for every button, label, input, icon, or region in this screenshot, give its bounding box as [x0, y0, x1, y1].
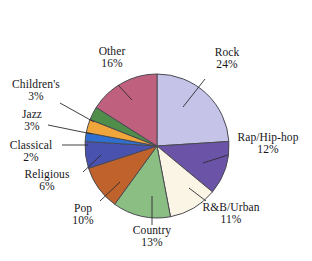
- pie-label-rock-name: Rock: [200, 46, 254, 58]
- pie-label-pop: Pop 10%: [63, 202, 103, 227]
- pie-label-rnb-urban: R&B/Urban 11%: [194, 201, 268, 226]
- pie-label-other-name: Other: [86, 45, 138, 57]
- pie-label-childrens-name: Children's: [8, 78, 64, 90]
- pie-label-childrens-value: 3%: [8, 90, 64, 102]
- pie-label-jazz: Jazz 3%: [14, 108, 50, 133]
- pie-label-childrens: Children's 3%: [8, 78, 64, 103]
- pie-chart-figure: Rock 24% Rap/Hip-hop 12% R&B/Urban 11% C…: [0, 0, 312, 261]
- pie-label-other-value: 16%: [86, 57, 138, 69]
- pie-label-rap-hip-hop: Rap/Hip-hop 12%: [228, 131, 308, 156]
- pie-label-country-value: 13%: [120, 236, 184, 248]
- pie-label-other: Other 16%: [86, 45, 138, 70]
- pie-label-rap-hip-hop-value: 12%: [228, 143, 308, 155]
- pie-label-classical-value: 2%: [0, 151, 62, 163]
- pie-label-rock: Rock 24%: [200, 46, 254, 71]
- pie-label-classical-name: Classical: [0, 139, 62, 151]
- leader-line-jazz: [48, 125, 92, 134]
- pie-label-rap-hip-hop-name: Rap/Hip-hop: [228, 131, 308, 143]
- pie-label-religious-name: Religious: [14, 168, 80, 180]
- pie-label-religious-value: 6%: [14, 180, 80, 192]
- pie-label-country-name: Country: [120, 224, 184, 236]
- pie-label-rock-value: 24%: [200, 58, 254, 70]
- pie-label-jazz-value: 3%: [14, 120, 50, 132]
- pie-slice-rock: [157, 74, 229, 146]
- leader-line-childrens: [60, 103, 94, 122]
- pie-label-pop-value: 10%: [63, 214, 103, 226]
- pie-label-jazz-name: Jazz: [14, 108, 50, 120]
- pie-label-classical: Classical 2%: [0, 139, 62, 164]
- pie-slices: [85, 74, 229, 218]
- pie-label-pop-name: Pop: [63, 202, 103, 214]
- pie-label-rnb-urban-name: R&B/Urban: [194, 201, 268, 213]
- pie-label-religious: Religious 6%: [14, 168, 80, 193]
- pie-label-country: Country 13%: [120, 224, 184, 249]
- pie-label-rnb-urban-value: 11%: [194, 213, 268, 225]
